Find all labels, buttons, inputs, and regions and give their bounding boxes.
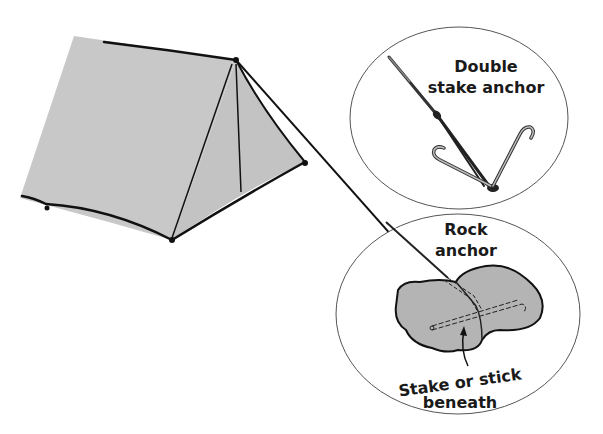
callout-title-line2: stake anchor: [428, 78, 545, 97]
callout-title-line2: anchor: [435, 241, 497, 260]
callout-rock-anchor: Rock anchor Stake or stick beneath: [336, 214, 580, 414]
callout-title-line1: Double: [454, 57, 518, 76]
callout-annotation-line2: beneath: [423, 393, 497, 412]
callout-double-stake-anchor: Double stake anchor: [350, 27, 568, 209]
tent-corner-knot: [45, 206, 50, 211]
tent-illustration: [20, 36, 308, 243]
callout-ellipse: [350, 27, 568, 209]
callout-title-line1: Rock: [444, 220, 488, 239]
tent-corner-knot: [302, 160, 308, 166]
tent-corner-knot: [169, 237, 175, 243]
diagram-canvas: Double stake anchor Rock anchor Stake or…: [0, 0, 603, 434]
